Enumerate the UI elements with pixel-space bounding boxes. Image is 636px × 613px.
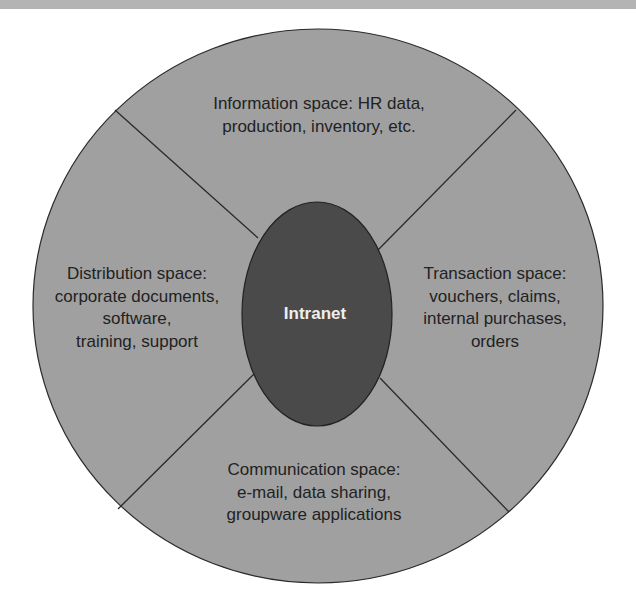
sector-line: orders	[423, 331, 567, 354]
sector-line: Information space: HR data,	[213, 93, 425, 116]
sector-line: e-mail, data sharing,	[227, 482, 402, 505]
sector-line: vouchers, claims,	[423, 286, 567, 309]
sector-line: production, inventory, etc.	[213, 116, 425, 139]
sector-line: corporate documents,	[55, 286, 219, 309]
sector-information-space: Information space: HR data, production, …	[213, 93, 425, 138]
sector-line: Distribution space:	[55, 263, 219, 286]
sector-line: Transaction space:	[423, 263, 567, 286]
sector-transaction-space: Transaction space: vouchers, claims, int…	[423, 263, 567, 353]
sector-line: internal purchases,	[423, 308, 567, 331]
sector-line: training, support	[55, 331, 219, 354]
sector-communication-space: Communication space: e-mail, data sharin…	[227, 459, 402, 527]
intranet-label: Intranet	[284, 304, 346, 324]
sector-distribution-space: Distribution space: corporate documents,…	[55, 263, 219, 353]
sector-line: Communication space:	[227, 459, 402, 482]
sector-line: groupware applications	[227, 504, 402, 527]
sector-line: software,	[55, 308, 219, 331]
